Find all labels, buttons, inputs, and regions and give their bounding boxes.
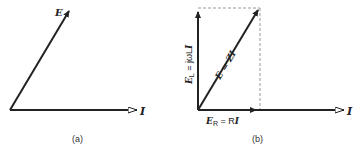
label-E-b: E = ZI — [213, 48, 239, 82]
caption-a: (a) — [72, 134, 83, 144]
vector-E-a — [10, 11, 69, 110]
label-EL: EL = jωLI — [184, 44, 195, 85]
label-I-b: I — [346, 105, 353, 118]
figure-b: I EL = jωLI E = ZI ER = RI (b) — [184, 8, 353, 144]
caption-b: (b) — [252, 134, 263, 144]
phasor-diagrams: E I (a) I EL = jωLI E = ZI ER = RI (b) — [0, 0, 355, 158]
label-ER: ER = RI — [205, 116, 240, 127]
figure-a: E I (a) — [10, 7, 146, 144]
label-I-a: I — [139, 105, 146, 118]
label-E-a: E — [54, 7, 63, 18]
